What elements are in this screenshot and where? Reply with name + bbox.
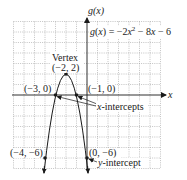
- graph-canvas: x g(x) g(x) = −2x2 − 8x − 6 Vertex (−2, …: [0, 0, 187, 180]
- x-axis-label: x: [167, 89, 173, 100]
- x-intercept-right-point: [75, 93, 79, 97]
- point-left-label: (−4, −6): [10, 147, 43, 159]
- y-intercept-pointer: [89, 159, 97, 162]
- x-intercepts-label: x-intercepts: [96, 101, 144, 112]
- x-intercepts-pointer-right: [78, 97, 97, 105]
- x-intercept-right-label: (−1, 0): [88, 83, 115, 95]
- function-label: g(x) = −2x2 − 8x − 6: [90, 25, 171, 38]
- x-intercept-left-point: [54, 93, 58, 97]
- point-left: [43, 156, 47, 160]
- x-intercept-left-label: (−3, 0): [24, 83, 51, 95]
- y-axis-label: g(x): [88, 5, 105, 17]
- vertex-coords: (−2, 2): [52, 62, 79, 74]
- y-intercept-label: y-intercept: [97, 157, 141, 168]
